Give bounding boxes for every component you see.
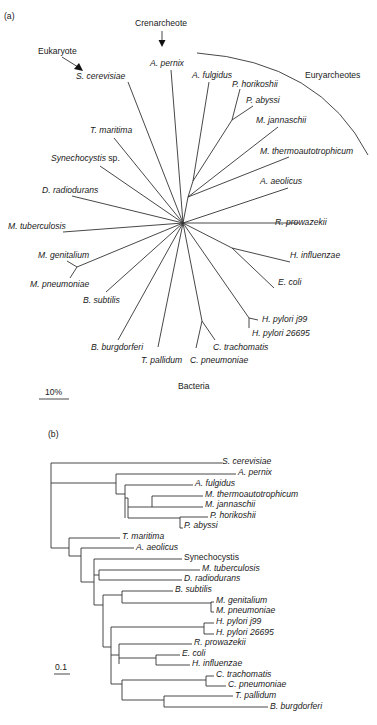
taxon-label-a-fulgidus: A. fulgidus (191, 70, 233, 80)
taxon-name: T. pallidum (141, 355, 182, 365)
taxon-name: D. radiodurans (42, 185, 99, 195)
taxon-label-synechocystis: Synechocystis (184, 552, 239, 562)
phylogenetic-figure: (a) Crenarcheote Eukaryote Euryarcheotes… (0, 0, 377, 725)
internal-branch-hpy (183, 223, 249, 318)
taxon-label-h-influenzae: H. influenzae (192, 658, 242, 668)
taxon-label-r-prowazekii: R. prowazekii (194, 637, 247, 647)
taxon-name: P. horikoshii (232, 79, 279, 89)
leaf-branch-a-fulgidus (193, 82, 209, 181)
leaf-branch-a-pernix (171, 70, 183, 223)
panel-a-branches (63, 70, 299, 348)
crenarcheote-arrow-icon (159, 31, 166, 47)
taxon-label-s-cerevisiae: S. cerevisiae (222, 456, 271, 466)
internal-branch-enter (183, 223, 232, 248)
taxon-name: B. subtilis (83, 295, 120, 305)
taxon-name: P. abyssi (246, 95, 281, 105)
taxon-label-t-maritima: T. maritima (90, 125, 132, 135)
taxon-name: H. pylori 26695 (252, 328, 310, 338)
taxon-label-p-horikoshii: P. horikoshii (210, 510, 257, 520)
taxon-label-s-cerevisiae: S. cerevisiae (76, 71, 125, 81)
taxon-suffix: sp. (106, 153, 120, 163)
taxon-label-m-thermoautotrophicum: M. thermoautotrophicum (260, 146, 353, 156)
taxon-label-m-jannaschii: M. jannaschii (205, 499, 256, 509)
panel-b-leaf-labels: S. cerevisiaeA. pernixA. fulgidusM. ther… (122, 456, 323, 711)
taxon-label-c-trachomatis: C. trachomatis (216, 669, 272, 679)
eukaryote-arrow-icon (62, 57, 83, 71)
leaf-branch-b-burgdorferi (118, 223, 183, 340)
taxon-label-b-subtilis: B. subtilis (175, 584, 212, 594)
taxon-label-m-thermoautotrophicum: M. thermoautotrophicum (205, 489, 298, 499)
taxon-label-h-pylori-j99: H. pylori j99 (216, 616, 262, 626)
taxon-label-p-abyssi: P. abyssi (246, 95, 281, 105)
panel-b-scale-label: 0.1 (55, 662, 67, 672)
taxon-name: R. prowazekii (275, 217, 328, 227)
taxon-name: M. thermoautotrophicum (260, 146, 353, 156)
taxon-label-synechocystis: Synechocystis sp. (51, 153, 120, 163)
eukaryote-group-label: Eukaryote (38, 46, 77, 56)
internal-branch-pyro (193, 120, 232, 181)
taxon-label-e-coli: E. coli (182, 648, 206, 658)
leaf-branch-synechocystis (100, 166, 183, 223)
taxon-label-h-influenzae: H. influenzae (290, 250, 340, 260)
taxon-label-a-pernix: A. pernix (237, 467, 273, 477)
taxon-label-m-genitalium: M. genitalium (38, 250, 89, 260)
leaf-branch-e-coli (232, 248, 274, 288)
taxon-name: H. pylori j99 (262, 314, 308, 324)
taxon-label-t-maritima: T. maritima (122, 531, 164, 541)
leaf-branch-m-jannaschii (188, 127, 278, 197)
crenarcheote-group-label: Crenarcheote (135, 18, 187, 28)
taxon-label-a-pernix: A. pernix (149, 58, 185, 68)
taxon-label-c-trachomatis: C. trachomatis (213, 342, 269, 352)
taxon-label-b-subtilis: B. subtilis (83, 295, 120, 305)
taxon-name: A. fulgidus (191, 70, 233, 80)
taxon-name: M. pneumoniae (30, 279, 89, 289)
internal-branch-chl (183, 223, 202, 321)
panel-a-scale-label: 10% (45, 387, 63, 397)
taxon-label-h-pylori-26695: H. pylori 26695 (252, 328, 310, 338)
taxon-label-e-coli: E. coli (278, 277, 302, 287)
taxon-label-m-pneumoniae: M. pneumoniae (30, 279, 89, 289)
panel-b-rectangular-tree: (b) 0.1 (48, 429, 323, 711)
taxon-label-d-radiodurans: D. radiodurans (184, 573, 241, 583)
internal-branch-arch (183, 197, 188, 223)
taxon-name: A. aeolicus (259, 176, 303, 186)
taxon-label-h-pylori-26695: H. pylori 26695 (216, 627, 274, 637)
taxon-label-d-radiodurans: D. radiodurans (42, 185, 99, 195)
leaf-branch-t-maritima (114, 138, 183, 223)
taxon-name: S. cerevisiae (76, 71, 125, 81)
taxon-label-c-pneumoniae: C. pneumoniae (190, 355, 249, 365)
taxon-label-t-pallidum: T. pallidum (141, 355, 182, 365)
taxon-name: Synechocystis (51, 153, 107, 163)
taxon-label-r-prowazekii: R. prowazekii (275, 217, 328, 227)
taxon-name: A. pernix (149, 58, 185, 68)
taxon-name: M. genitalium (38, 250, 89, 260)
taxon-label-m-tuberculosis: M. tuberculosis (8, 221, 66, 231)
panel-b-label: (b) (48, 429, 59, 439)
taxon-name: T. maritima (90, 125, 132, 135)
taxon-name: E. coli (278, 277, 302, 287)
taxon-name: M. tuberculosis (8, 221, 66, 231)
leaf-branch-s-cerevisiae (128, 82, 183, 223)
taxon-label-m-pneumoniae: M. pneumoniae (216, 605, 275, 615)
taxon-name: M. jannaschii (256, 115, 307, 125)
leaf-branch-m-genitalium (67, 261, 77, 267)
leaf-branch-h-pylori-j99 (249, 318, 258, 320)
panel-a-label: (a) (4, 11, 15, 21)
taxon-label-m-genitalium: M. genitalium (216, 595, 267, 605)
leaf-branch-m-pneumoniae (70, 267, 77, 278)
taxon-label-m-jannaschii: M. jannaschii (256, 115, 307, 125)
taxon-name: C. pneumoniae (190, 355, 249, 365)
taxon-label-b-burgdorferi: B. burgdorferi (91, 342, 144, 352)
taxon-label-c-pneumoniae: C. pneumoniae (228, 679, 287, 689)
taxon-label-h-pylori-j99: H. pylori j99 (262, 314, 308, 324)
taxon-name: H. influenzae (290, 250, 340, 260)
taxon-label-a-fulgidus: A. fulgidus (194, 478, 236, 488)
taxon-label-t-pallidum: T. pallidum (235, 690, 276, 700)
leaf-branch-c-trachomatis (202, 321, 215, 340)
euryarcheotes-arc (197, 53, 368, 155)
taxon-label-b-burgdorferi: B. burgdorferi (270, 701, 323, 711)
taxon-label-p-horikoshii: P. horikoshii (232, 79, 279, 89)
taxon-label-a-aeolicus: A. aeolicus (135, 542, 179, 552)
leaf-branch-a-aeolicus (183, 188, 288, 223)
euryarcheotes-group-label: Euryarcheotes (305, 70, 360, 80)
